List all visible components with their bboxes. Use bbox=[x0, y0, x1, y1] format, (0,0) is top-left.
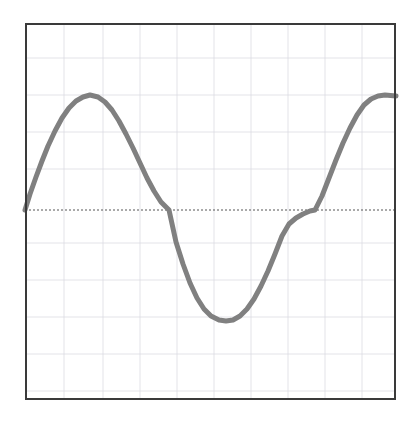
sine-wave-chart bbox=[0, 0, 417, 428]
figure-canvas bbox=[0, 0, 417, 428]
plot-background bbox=[25, 23, 396, 400]
